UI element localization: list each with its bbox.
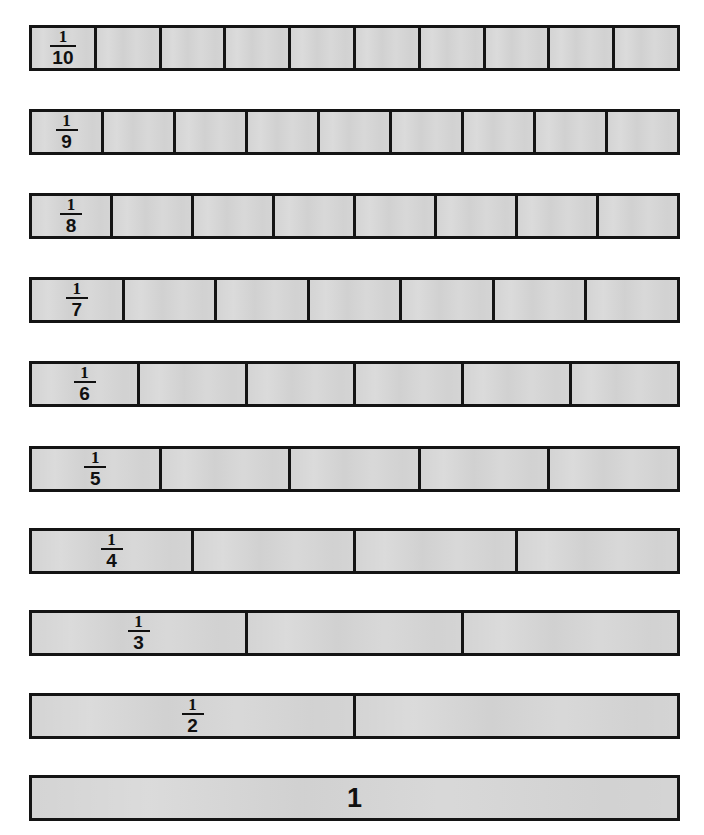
fraction-label: 12 bbox=[182, 697, 204, 736]
fraction-segment[interactable] bbox=[518, 196, 599, 236]
fraction-denominator: 8 bbox=[66, 216, 77, 235]
fraction-numerator: 1 bbox=[62, 113, 71, 128]
fraction-segment[interactable] bbox=[320, 112, 392, 152]
fraction-bar-1-over-9[interactable]: 19 bbox=[29, 109, 680, 155]
fraction-wall: 11019181716151413121 bbox=[0, 0, 704, 835]
whole-label: 1 bbox=[347, 783, 362, 814]
fraction-denominator: 4 bbox=[106, 551, 117, 570]
fraction-segment[interactable]: 15 bbox=[32, 449, 162, 489]
fraction-segment[interactable] bbox=[226, 28, 291, 68]
fraction-numerator: 1 bbox=[73, 281, 82, 296]
fraction-denominator: 3 bbox=[133, 633, 144, 652]
fraction-segment[interactable] bbox=[608, 112, 677, 152]
fraction-label: 110 bbox=[50, 29, 76, 68]
fraction-segment[interactable]: 1 bbox=[32, 778, 677, 818]
fraction-segment[interactable] bbox=[421, 28, 486, 68]
fraction-denominator: 2 bbox=[187, 716, 198, 735]
fraction-numerator: 1 bbox=[59, 29, 68, 44]
fraction-segment[interactable] bbox=[275, 196, 356, 236]
fraction-segment[interactable] bbox=[140, 364, 248, 404]
fraction-bar-1-over-8[interactable]: 18 bbox=[29, 193, 680, 239]
fraction-segment[interactable] bbox=[437, 196, 518, 236]
fraction-segment[interactable] bbox=[310, 280, 403, 320]
fraction-segment[interactable] bbox=[125, 280, 218, 320]
fraction-bar-1-over-10[interactable]: 110 bbox=[29, 25, 680, 71]
fraction-numerator: 1 bbox=[67, 197, 76, 212]
fraction-segment[interactable] bbox=[104, 112, 176, 152]
fraction-bar-1[interactable]: 1 bbox=[29, 775, 680, 821]
fraction-bar-1-over-2[interactable]: 12 bbox=[29, 693, 680, 739]
fraction-bar-1-over-6[interactable]: 16 bbox=[29, 361, 680, 407]
fraction-label: 14 bbox=[101, 532, 123, 571]
fraction-segment[interactable] bbox=[162, 28, 227, 68]
fraction-numerator: 1 bbox=[107, 532, 116, 547]
fraction-segment[interactable] bbox=[291, 449, 421, 489]
fraction-denominator: 9 bbox=[61, 132, 72, 151]
fraction-bar-1-over-3[interactable]: 13 bbox=[29, 610, 680, 656]
fraction-segment[interactable]: 110 bbox=[32, 28, 97, 68]
fraction-segment[interactable] bbox=[356, 364, 464, 404]
fraction-segment[interactable] bbox=[464, 112, 536, 152]
fraction-segment[interactable] bbox=[194, 531, 356, 571]
fraction-segment[interactable] bbox=[176, 112, 248, 152]
fraction-bar-1-over-7[interactable]: 17 bbox=[29, 277, 680, 323]
fraction-label: 19 bbox=[56, 113, 78, 152]
fraction-segment[interactable] bbox=[162, 449, 292, 489]
fraction-segment[interactable] bbox=[572, 364, 677, 404]
fraction-segment[interactable] bbox=[356, 28, 421, 68]
fraction-numerator: 1 bbox=[134, 614, 143, 629]
fraction-segment[interactable] bbox=[550, 449, 677, 489]
fraction-bar-1-over-5[interactable]: 15 bbox=[29, 446, 680, 492]
fraction-segment[interactable] bbox=[486, 28, 551, 68]
fraction-segment[interactable] bbox=[615, 28, 677, 68]
fraction-segment[interactable] bbox=[587, 280, 677, 320]
fraction-segment[interactable] bbox=[392, 112, 464, 152]
fraction-segment[interactable] bbox=[97, 28, 162, 68]
fraction-segment[interactable] bbox=[248, 364, 356, 404]
fraction-denominator: 6 bbox=[79, 384, 90, 403]
fraction-segment[interactable] bbox=[421, 449, 551, 489]
fraction-label: 13 bbox=[128, 614, 150, 653]
fraction-segment[interactable] bbox=[356, 696, 677, 736]
fraction-denominator: 5 bbox=[90, 469, 101, 488]
fraction-segment[interactable] bbox=[291, 28, 356, 68]
fraction-numerator: 1 bbox=[80, 365, 89, 380]
fraction-segment[interactable]: 14 bbox=[32, 531, 194, 571]
fraction-denominator: 7 bbox=[71, 300, 82, 319]
fraction-bar-1-over-4[interactable]: 14 bbox=[29, 528, 680, 574]
fraction-segment[interactable] bbox=[356, 196, 437, 236]
fraction-segment[interactable] bbox=[536, 112, 608, 152]
fraction-segment[interactable] bbox=[248, 613, 464, 653]
fraction-segment[interactable] bbox=[495, 280, 588, 320]
fraction-segment[interactable] bbox=[550, 28, 615, 68]
fraction-segment[interactable] bbox=[248, 112, 320, 152]
fraction-segment[interactable] bbox=[194, 196, 275, 236]
fraction-label: 17 bbox=[66, 281, 88, 320]
fraction-numerator: 1 bbox=[91, 450, 100, 465]
fraction-numerator: 1 bbox=[188, 697, 197, 712]
fraction-label: 16 bbox=[74, 365, 96, 404]
fraction-segment[interactable]: 17 bbox=[32, 280, 125, 320]
fraction-segment[interactable] bbox=[402, 280, 495, 320]
fraction-segment[interactable] bbox=[464, 364, 572, 404]
fraction-segment[interactable]: 18 bbox=[32, 196, 113, 236]
fraction-segment[interactable] bbox=[356, 531, 518, 571]
fraction-segment[interactable] bbox=[518, 531, 677, 571]
fraction-segment[interactable] bbox=[599, 196, 677, 236]
fraction-segment[interactable]: 19 bbox=[32, 112, 104, 152]
fraction-segment[interactable] bbox=[113, 196, 194, 236]
fraction-segment[interactable]: 13 bbox=[32, 613, 248, 653]
fraction-segment[interactable] bbox=[217, 280, 310, 320]
fraction-denominator: 10 bbox=[52, 48, 73, 67]
fraction-segment[interactable] bbox=[464, 613, 677, 653]
fraction-label: 18 bbox=[60, 197, 82, 236]
fraction-label: 15 bbox=[84, 450, 106, 489]
fraction-segment[interactable]: 12 bbox=[32, 696, 356, 736]
fraction-segment[interactable]: 16 bbox=[32, 364, 140, 404]
